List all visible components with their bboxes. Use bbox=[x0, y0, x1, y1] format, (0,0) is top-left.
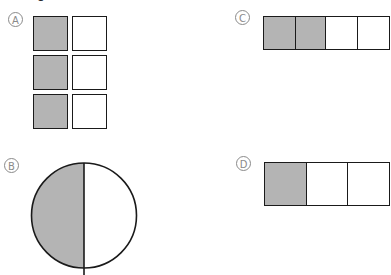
grid-cell-shaded bbox=[33, 55, 68, 90]
strip-cell bbox=[347, 162, 390, 206]
strip-cell bbox=[306, 162, 349, 206]
strip-cell bbox=[325, 16, 358, 50]
grid-cell-shaded bbox=[33, 16, 68, 51]
circle-half-shaded bbox=[32, 163, 84, 268]
grid-cell bbox=[72, 16, 107, 51]
strip-cell-shaded bbox=[263, 16, 296, 50]
option-label-c: C bbox=[235, 10, 250, 25]
grid-cell bbox=[72, 94, 107, 129]
strip-cell-shaded bbox=[264, 162, 307, 206]
strip-cell bbox=[357, 16, 390, 50]
option-label-a: A bbox=[8, 12, 23, 27]
option-label-d: D bbox=[236, 156, 251, 171]
grid-cell bbox=[72, 55, 107, 90]
option-label-b: B bbox=[4, 158, 19, 173]
circle-model-b bbox=[28, 160, 143, 275]
clipped-text-fragment: 1 bbox=[37, 0, 45, 4]
strip-cell-shaded bbox=[295, 16, 327, 50]
grid-cell-shaded bbox=[33, 94, 68, 129]
